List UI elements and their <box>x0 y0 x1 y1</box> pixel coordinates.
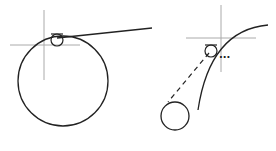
right-ellipsis: ... <box>219 49 230 60</box>
left-illustration <box>10 10 152 126</box>
right-dashed-line <box>168 53 209 102</box>
tangent-diagram: ... <box>0 0 276 151</box>
left-tangent-line <box>57 28 152 38</box>
left-big-circle <box>18 36 108 126</box>
diagram-canvas: ... <box>0 0 276 151</box>
right-small-circle <box>161 102 189 130</box>
right-illustration: ... <box>161 5 268 130</box>
